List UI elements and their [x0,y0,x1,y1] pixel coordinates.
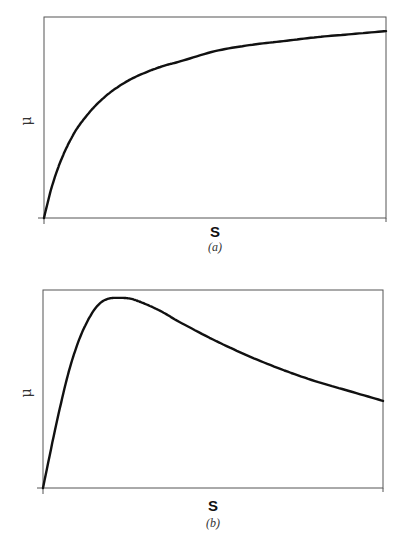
chart-panel-b: μ S (b) [0,0,399,544]
y-axis-label-b: μ [19,383,33,403]
x-axis-label-b: S [193,497,233,514]
curve-b [43,298,383,488]
caption-b: (b) [193,516,233,531]
plot-frame-b [43,290,383,488]
plot-area-b [0,0,399,544]
